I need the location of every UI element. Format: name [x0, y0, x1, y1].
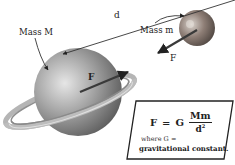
label-force-large: F: [88, 72, 94, 82]
formula-constant: G: [176, 117, 185, 128]
formula-constant-description: gravitational constant.: [139, 144, 228, 153]
label-force-small: F: [170, 53, 176, 63]
formula-equation: F = G Mm d2: [150, 111, 212, 134]
formula-box: F = G Mm d2 where G = gravitational cons…: [130, 101, 230, 159]
formula-numerator: Mm: [189, 111, 212, 123]
label-mass-m: Mass m: [140, 25, 173, 35]
planet-mass-m: [179, 10, 215, 46]
formula-exponent: 2: [202, 123, 205, 129]
formula-fraction: Mm d2: [189, 111, 212, 134]
gravitation-diagram: Mass M Mass m d F F F = G Mm d2 where G …: [0, 0, 235, 165]
label-distance: d: [114, 10, 120, 20]
mass-m-pointer: [155, 16, 184, 23]
label-mass-M: Mass M: [19, 27, 53, 37]
formula-where: where G =: [141, 135, 176, 143]
formula-denominator-wrap: d2: [195, 123, 205, 134]
planet-highlight: [186, 20, 194, 28]
formula-equals: =: [162, 117, 170, 128]
formula-lhs: F: [150, 117, 157, 128]
